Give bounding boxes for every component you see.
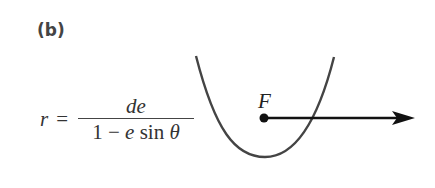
conic-diagram: F [0,0,435,188]
focus-label: F [257,89,271,113]
focus-point [260,114,269,123]
